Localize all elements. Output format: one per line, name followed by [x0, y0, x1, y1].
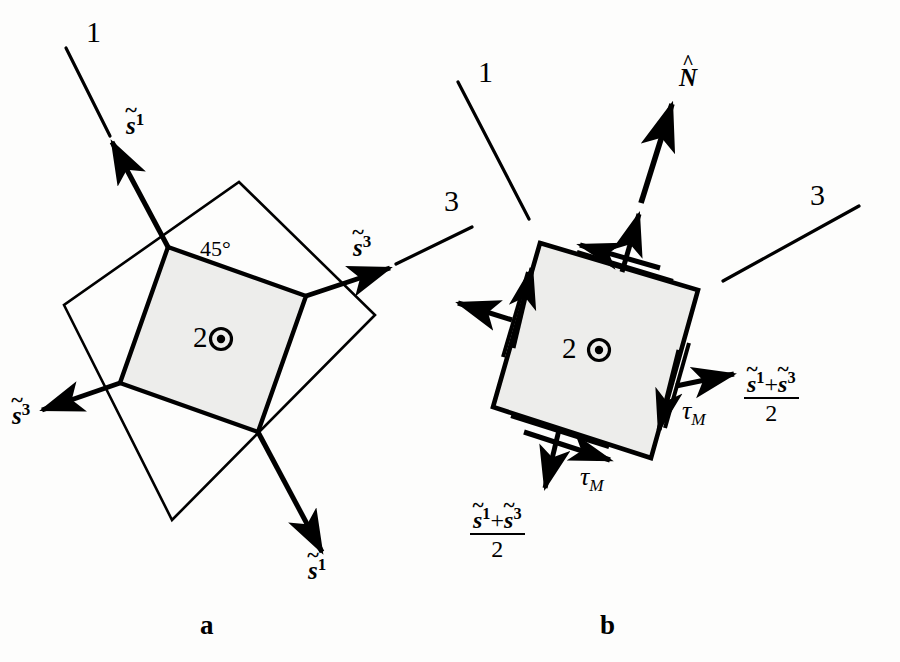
panel-a-axis-3-label: 3: [444, 186, 459, 216]
panel-a-s3-right-symbol: s: [353, 234, 363, 261]
panel-a-inner-square: [120, 247, 306, 432]
panel-b-frac-bottom-plus: +: [491, 507, 505, 533]
panel-a-letter: a: [200, 612, 214, 639]
panel-a-axis-3-line: [396, 227, 472, 264]
panel-a-axis-1-label: 1: [86, 17, 101, 47]
panel-b-tau-bottom-symbol: τ: [580, 462, 589, 491]
panel-b-normal-stress-bottom-label: ~s1+~s3 2: [470, 506, 525, 561]
panel-b-tau-right-subscript: M: [691, 410, 705, 429]
panel-a-s3-left-symbol: s: [12, 402, 22, 429]
panel-a-axis-1-line: [66, 48, 110, 136]
panel-b-frac-bottom: ~s1+~s3 2: [470, 506, 525, 561]
panel-b-frac-right-numerator: ~s1+~s3: [744, 370, 799, 399]
figure-container: 1 3 45° 2 ~s1 ~s3 ~s3 ~s1 a 1 3 ^ N 2 τM…: [0, 0, 900, 662]
panel-b-hat-accent-icon: ^: [682, 52, 694, 72]
tilde-accent-icon: ~: [472, 495, 483, 515]
panel-a-vector-s1-up-label: ~s1: [126, 111, 144, 138]
panel-b-axis-1-line: [458, 82, 529, 219]
panel-b-tau-right-symbol: τ: [682, 396, 691, 425]
panel-a-vector-s1-up-arrow: [112, 142, 168, 247]
panel-b-normal-nhat-label: ^ N: [679, 65, 697, 90]
panel-a-center-number: 2: [193, 323, 208, 352]
panel-a-vector-s3-left-arrow: [42, 383, 120, 410]
panel-b-letter: b: [600, 612, 615, 639]
tilde-accent-icon: ~: [503, 495, 514, 515]
panel-a-vector-s3-right-arrow: [306, 268, 390, 296]
panel-b-normal-nhat-arrow: [641, 104, 672, 203]
panel-b-frac-right-denominator: 2: [744, 399, 799, 425]
panel-b-normal-stress-right-label: ~s1+~s3 2: [744, 370, 799, 425]
panel-a-angle-label: 45°: [200, 238, 231, 260]
panel-b-tau-bottom-subscript: M: [589, 476, 603, 495]
panel-b-center-number: 2: [562, 334, 577, 363]
panel-a-vector-s1-down-arrow: [258, 432, 322, 552]
panel-a-vector-s3-left-label: ~s3: [12, 401, 30, 428]
panel-b-frac-right: ~s1+~s3 2: [744, 370, 799, 425]
panel-b-right-normal-arrow: [676, 374, 734, 386]
panel-b-frac-bottom-denominator: 2: [470, 535, 525, 561]
panel-a-graphics: [42, 48, 472, 552]
panel-b-graphics: [458, 82, 859, 488]
panel-a-s1-down-symbol: s: [308, 557, 318, 584]
panel-b-axis-1-label: 1: [478, 57, 493, 87]
tilde-accent-icon: ~: [777, 359, 788, 379]
panel-a-s1-down-superscript: 1: [318, 555, 327, 574]
panel-a-vector-s1-down-label: ~s1: [308, 556, 326, 583]
panel-b-axis-3-label: 3: [810, 180, 825, 210]
panel-b-frac-right-plus: +: [765, 371, 779, 397]
panel-b-left-normal-arrow: [458, 303, 512, 320]
panel-a-s3-left-superscript: 3: [22, 400, 31, 419]
panel-b-tau-bottom-label: τM: [580, 464, 604, 494]
panel-a-s1-up-superscript: 1: [136, 110, 145, 129]
tilde-accent-icon: ~: [746, 359, 757, 379]
panel-a-vector-s3-right-label: ~s3: [353, 233, 371, 260]
panel-b-axis-3-line-right: [723, 206, 859, 281]
panel-b-tau-right-label: τM: [682, 398, 706, 428]
panel-a-s1-up-symbol: s: [126, 112, 136, 139]
panel-a-s3-right-superscript: 3: [363, 232, 372, 251]
panel-a-out-of-plane-dot: [217, 335, 225, 343]
panel-b-frac-bottom-numerator: ~s1+~s3: [470, 506, 525, 535]
panel-b-out-of-plane-dot: [595, 346, 603, 354]
